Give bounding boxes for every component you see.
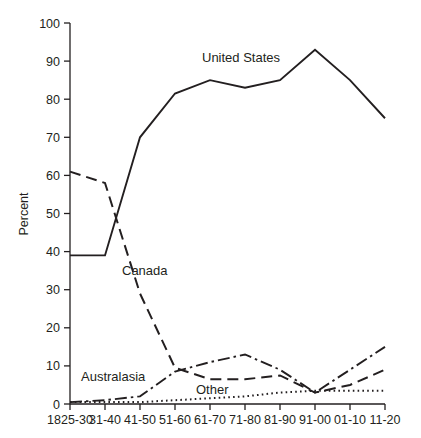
y-tick-label: 60 <box>46 169 60 183</box>
series-label-united-states: United States <box>202 50 281 65</box>
series-label-other: Other <box>196 382 229 397</box>
series-lines <box>70 50 385 402</box>
x-tick-label: 71-80 <box>229 413 261 427</box>
series-line-canada <box>70 172 385 393</box>
x-tick-label: 61-70 <box>194 413 226 427</box>
y-tick-label: 40 <box>46 245 60 259</box>
x-tick-label: 91-00 <box>299 413 331 427</box>
x-tick-label: 81-90 <box>264 413 296 427</box>
y-axis: 0102030405060708090100 <box>39 17 70 412</box>
x-tick-label: 1825-30 <box>47 413 93 427</box>
y-tick-label: 80 <box>46 93 60 107</box>
series-annotations: United StatesCanadaAustralasiaOther <box>81 50 281 397</box>
y-tick-label: 100 <box>39 17 60 31</box>
x-tick-label: 41-50 <box>124 413 156 427</box>
x-tick-label: 01-10 <box>334 413 366 427</box>
x-tick-label: 51-60 <box>159 413 191 427</box>
y-tick-label: 20 <box>46 321 60 335</box>
series-label-australasia: Australasia <box>81 369 146 384</box>
y-tick-label: 0 <box>53 398 60 412</box>
y-tick-label: 90 <box>46 55 60 69</box>
y-axis-title: Percent <box>17 192 31 236</box>
series-label-canada: Canada <box>122 263 168 278</box>
y-tick-label: 70 <box>46 131 60 145</box>
y-tick-label: 10 <box>46 359 60 373</box>
x-axis: 1825-3031-4041-5051-6061-7071-8081-9091-… <box>47 404 401 427</box>
y-tick-label: 30 <box>46 283 60 297</box>
series-line-united-states <box>70 50 385 256</box>
chart-container: 0102030405060708090100 1825-3031-4041-50… <box>0 0 421 438</box>
y-tick-label: 50 <box>46 207 60 221</box>
line-chart-svg: 0102030405060708090100 1825-3031-4041-50… <box>0 0 421 438</box>
x-tick-label: 11-20 <box>369 413 400 427</box>
x-tick-label: 31-40 <box>89 413 121 427</box>
